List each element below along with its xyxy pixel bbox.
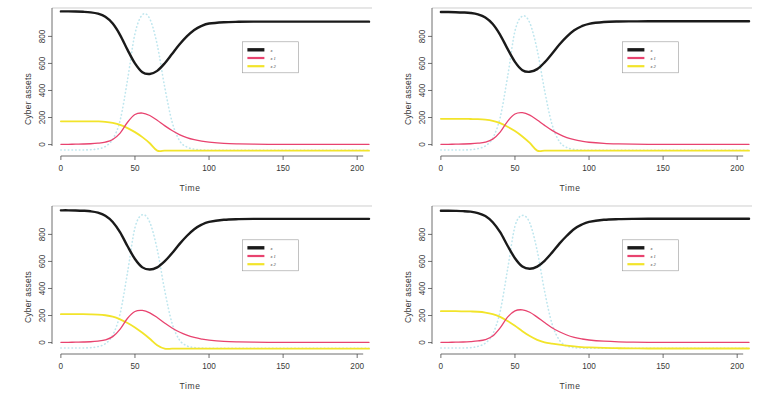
y-axis-title: Cyber assets: [403, 73, 413, 125]
legend-label-1: x: [649, 48, 652, 53]
x-axis-title: Time: [0, 183, 380, 193]
plot-area-3: 0200400600800050100150200xx 1x 2: [0, 198, 380, 396]
series-line-x: [61, 11, 369, 74]
x-tick-label: 100: [202, 362, 216, 371]
y-tick-label: 800: [38, 29, 47, 43]
legend-label-1: x: [649, 246, 652, 251]
y-tick-label: 400: [38, 83, 47, 97]
y-tick-label: 400: [38, 281, 47, 295]
y-tick-label: 600: [38, 254, 47, 268]
x-axis: [61, 156, 363, 160]
x-tick-label: 200: [350, 164, 364, 173]
y-tick-label: 400: [418, 281, 427, 295]
series-line-x: [61, 210, 369, 269]
chart-panel-1: 0200400600800050100150200xx 1x 2Cyber as…: [0, 0, 380, 198]
x-tick-label: 100: [582, 164, 596, 173]
y-tick-label: 200: [418, 308, 427, 322]
y-axis: [428, 8, 432, 146]
series-line-x-3: [441, 215, 749, 348]
x-axis: [441, 156, 743, 160]
y-tick-label: 200: [38, 308, 47, 322]
series-line-x-2: [61, 121, 369, 151]
series-line-x-3: [61, 215, 369, 349]
x-tick-label: 0: [59, 164, 64, 173]
x-tick-label: 50: [510, 362, 520, 371]
y-axis: [428, 206, 432, 344]
legend-label-2: x 1: [649, 254, 655, 259]
x-tick-label: 100: [582, 362, 596, 371]
legend-label-3: x 2: [269, 262, 276, 267]
series-line-x-1: [441, 310, 749, 343]
series-line-x-3: [441, 16, 749, 150]
panel-grid: 0200400600800050100150200xx 1x 2Cyber as…: [0, 0, 760, 396]
x-tick-label: 150: [276, 362, 290, 371]
y-axis: [48, 8, 52, 146]
y-axis-title: Cyber assets: [23, 271, 33, 323]
legend-label-1: x: [269, 246, 272, 251]
legend-label-3: x 2: [269, 64, 276, 69]
x-axis-title: Time: [380, 183, 760, 193]
x-tick-label: 50: [130, 164, 140, 173]
chart-panel-4: 0200400600800050100150200xx 1x 2Cyber as…: [380, 198, 760, 396]
series-line-x-1: [441, 113, 749, 145]
y-tick-label: 600: [418, 254, 427, 268]
x-tick-label: 150: [656, 362, 670, 371]
y-axis-title: Cyber assets: [403, 271, 413, 323]
series-line-x: [441, 12, 749, 72]
y-tick-label: 800: [418, 29, 427, 43]
legend-label-1: x: [269, 48, 272, 53]
plot-area-1: 0200400600800050100150200xx 1x 2: [0, 0, 380, 198]
y-tick-label: 400: [418, 83, 427, 97]
x-tick-label: 50: [130, 362, 140, 371]
x-tick-label: 0: [439, 362, 444, 371]
series-line-x-2: [441, 119, 749, 151]
plot-area-4: 0200400600800050100150200xx 1x 2: [380, 198, 760, 396]
legend-label-2: x 1: [269, 56, 275, 61]
series-line-x-2: [61, 314, 369, 349]
x-tick-label: 150: [656, 164, 670, 173]
y-tick-label: 200: [38, 110, 47, 124]
x-tick-label: 0: [439, 164, 444, 173]
plot-area-2: 0200400600800050100150200xx 1x 2: [380, 0, 760, 198]
y-tick-label: 0: [38, 340, 47, 345]
y-tick-label: 600: [418, 56, 427, 70]
series-line-x: [441, 211, 749, 269]
y-tick-label: 800: [418, 227, 427, 241]
y-tick-label: 0: [38, 142, 47, 147]
x-tick-label: 0: [59, 362, 64, 371]
x-axis: [441, 354, 743, 358]
y-tick-label: 800: [38, 227, 47, 241]
series-line-x-3: [61, 14, 369, 151]
x-tick-label: 200: [350, 362, 364, 371]
y-axis-title: Cyber assets: [23, 73, 33, 125]
legend-label-2: x 1: [649, 56, 655, 61]
x-tick-label: 50: [510, 164, 520, 173]
chart-panel-3: 0200400600800050100150200xx 1x 2Cyber as…: [0, 198, 380, 396]
y-tick-label: 200: [418, 110, 427, 124]
legend-label-3: x 2: [649, 262, 656, 267]
legend-label-2: x 1: [269, 254, 275, 259]
chart-panel-2: 0200400600800050100150200xx 1x 2Cyber as…: [380, 0, 760, 198]
x-tick-label: 200: [730, 164, 744, 173]
legend-label-3: x 2: [649, 64, 656, 69]
y-axis: [48, 206, 52, 344]
series-line-x-1: [61, 113, 369, 144]
x-axis-title: Time: [380, 381, 760, 391]
x-axis: [61, 354, 363, 358]
x-tick-label: 150: [276, 164, 290, 173]
x-axis-title: Time: [0, 381, 380, 391]
y-tick-label: 600: [38, 56, 47, 70]
x-tick-label: 200: [730, 362, 744, 371]
x-tick-label: 100: [202, 164, 216, 173]
y-tick-label: 0: [418, 142, 427, 147]
y-tick-label: 0: [418, 340, 427, 345]
